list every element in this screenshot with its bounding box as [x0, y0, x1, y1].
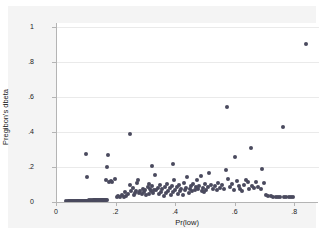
x-axis-tick-label: .6	[225, 207, 245, 216]
scatter-point	[240, 189, 244, 193]
scatter-point	[260, 167, 264, 171]
scatter-point	[291, 195, 295, 199]
scatter-point	[235, 179, 239, 183]
gridline	[57, 167, 319, 168]
scatter-point	[233, 155, 237, 159]
y-axis-tick-label: 1	[30, 23, 34, 31]
x-axis-line	[56, 202, 318, 203]
y-axis-tick-label: .6	[28, 93, 34, 101]
gridline	[57, 62, 319, 63]
gridline	[57, 27, 319, 28]
scatter-point	[246, 180, 250, 184]
scatter-point	[281, 125, 285, 129]
y-axis-tick	[52, 97, 56, 98]
scatter-point	[171, 162, 175, 166]
scatter-point	[84, 152, 88, 156]
x-axis-tick-label: .2	[106, 207, 126, 216]
y-axis-tick	[52, 27, 56, 28]
scatter-point	[136, 178, 140, 182]
scatter-point	[185, 175, 189, 179]
scatter-point	[113, 177, 117, 181]
scatter-point	[85, 175, 89, 179]
scatter-point	[128, 132, 132, 136]
y-axis-tick	[52, 132, 56, 133]
scatter-point	[247, 187, 251, 191]
scatter-point	[106, 153, 110, 157]
y-axis-tick-label: .2	[28, 163, 34, 171]
scatter-point	[199, 174, 203, 178]
scatter-point	[224, 168, 228, 172]
gridline	[57, 132, 319, 133]
scatter-point	[207, 171, 211, 175]
scatter-point	[226, 177, 230, 181]
scatter-point	[262, 181, 266, 185]
scatter-point	[153, 173, 157, 177]
scatter-point	[222, 187, 226, 191]
x-axis-tick-label: 0	[46, 207, 66, 216]
scatter-point	[252, 186, 256, 190]
scatter-point	[195, 178, 199, 182]
gridline	[57, 97, 319, 98]
y-axis-tick	[52, 62, 56, 63]
x-axis-tick	[56, 202, 57, 206]
chart-screenshot: 0.2.4.6.81 0.2.4.6.8 Pregibon's dbeta Pr…	[0, 0, 324, 240]
y-axis-tick	[52, 167, 56, 168]
graph-region: 0.2.4.6.81 0.2.4.6.8 Pregibon's dbeta Pr…	[8, 6, 316, 228]
scatter-point	[110, 180, 114, 184]
x-axis-tick	[175, 202, 176, 206]
scatter-point	[304, 42, 308, 46]
scatter-point	[259, 187, 263, 191]
scatter-point	[105, 165, 109, 169]
y-axis-tick-label: .8	[28, 58, 34, 66]
x-axis-tick-label: .4	[165, 207, 185, 216]
scatter-point	[181, 193, 185, 197]
scatter-point	[232, 188, 236, 192]
scatter-point	[230, 182, 234, 186]
scatter-point	[254, 180, 258, 184]
x-axis-tick	[294, 202, 295, 206]
x-axis-title: Pr(low)	[56, 218, 318, 227]
y-axis-tick-label: .4	[28, 128, 34, 136]
scatter-point	[242, 183, 246, 187]
x-axis-tick	[235, 202, 236, 206]
y-axis-tick-label: 0	[30, 198, 34, 206]
x-axis-tick-label: .8	[284, 207, 304, 216]
scatter-point	[182, 181, 186, 185]
plot-area	[56, 23, 319, 202]
x-axis-tick	[116, 202, 117, 206]
scatter-point	[249, 146, 253, 150]
scatter-point	[225, 105, 229, 109]
y-axis-title: Pregibon's dbeta	[1, 89, 10, 145]
scatter-point	[172, 178, 176, 182]
